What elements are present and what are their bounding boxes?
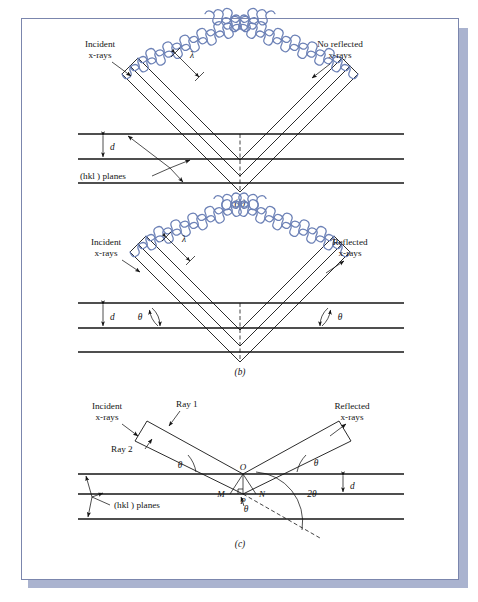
panel-a-hkl-label: (hkl ) planes [80, 171, 126, 181]
panel-a-beam-ends [122, 58, 358, 74]
panel-b-theta-left-label: θ [138, 312, 143, 322]
panel-c-d-label: d [350, 481, 355, 491]
panel-c-path-difference-triangle [230, 474, 256, 494]
panel-a-d-label: d [110, 142, 115, 152]
panel-b-theta-right-label: θ [338, 312, 343, 322]
panel-b: Incident x-rays Reflected x-rays λ d θ [78, 193, 404, 378]
panel-a-outgoing-label-line1: No reflected [317, 39, 363, 49]
panel-b-theta-right-arc [320, 308, 331, 326]
panel-b-incident-waves [130, 193, 266, 257]
panel-a: Incident x-rays No reflected x-rays λ d … [78, 8, 404, 209]
panel-c-caption: (c) [235, 539, 245, 550]
panel-c-outgoing-label-line1: Reflected [334, 401, 370, 411]
panel-b-incident-label-line1: Incident [91, 237, 122, 247]
panel-b-wavelength-dimension [162, 232, 195, 265]
panel-c-outgoing-leader [330, 424, 346, 436]
panel-c-2theta-arc [256, 472, 303, 530]
panel-c-incident-leader [122, 424, 138, 436]
panel-c-theta-left-label: θ [178, 460, 183, 470]
panel-b-caption: (b) [235, 367, 246, 378]
panel-b-outgoing-label-line2: x-rays [339, 248, 362, 258]
panel-c-incident-label-line2: x-rays [96, 412, 119, 422]
panel-b-d-label: d [110, 312, 115, 322]
panel-b-outgoing-leader [326, 261, 344, 273]
xrd-figure: Incident x-rays No reflected x-rays λ d … [0, 0, 478, 602]
panel-c-2theta-dashed-line [243, 494, 320, 538]
panel-b-beam-ends [130, 236, 350, 252]
panel-a-outgoing-label-line2: x-rays [329, 50, 352, 60]
panel-c-outgoing-label-line2: x-rays [341, 412, 364, 422]
figure-page: Incident x-rays No reflected x-rays λ d … [0, 0, 478, 602]
panel-b-incident-leader [122, 260, 140, 272]
panel-a-wavelength-dimension [171, 48, 204, 81]
panel-b-lambda-label: λ [181, 234, 186, 244]
panel-c-point-M: M [216, 489, 225, 499]
panel-a-outgoing-leader [312, 64, 330, 78]
panel-c-hkl-leaders [86, 476, 110, 517]
panel-c-ray2-label: Ray 2 [111, 444, 133, 454]
panel-c-ray1-leader [169, 411, 180, 426]
panel-c-theta-right-label: θ [314, 458, 319, 468]
panel-a-incident-label-line2: x-rays [89, 50, 112, 60]
panel-c-point-N: N [258, 489, 266, 499]
panel-a-incident-waves [122, 8, 275, 78]
panel-a-rays [122, 58, 358, 192]
panel-c-incident-label-line1: Incident [92, 401, 123, 411]
panel-c-ray1-label: Ray 1 [176, 399, 198, 409]
panel-c-hkl-label: (hkl ) planes [114, 500, 160, 510]
panel-a-lambda-label: λ [189, 50, 194, 60]
panel-c: 2θ θ θ θ O M P N Incident x-rays [78, 399, 404, 550]
panel-c-point-P: P [239, 496, 246, 506]
panel-b-outgoing-waves [214, 193, 350, 257]
panel-b-incident-label-line2: x-rays [95, 248, 118, 258]
panel-b-outgoing-label-line1: Reflected [332, 237, 368, 247]
panel-c-point-O: O [240, 462, 247, 472]
panel-c-2theta-label: 2θ [307, 489, 317, 499]
panel-a-incident-label-line1: Incident [85, 39, 116, 49]
panel-c-beam-ends [135, 421, 351, 441]
panel-b-theta-left-arc [150, 308, 161, 326]
